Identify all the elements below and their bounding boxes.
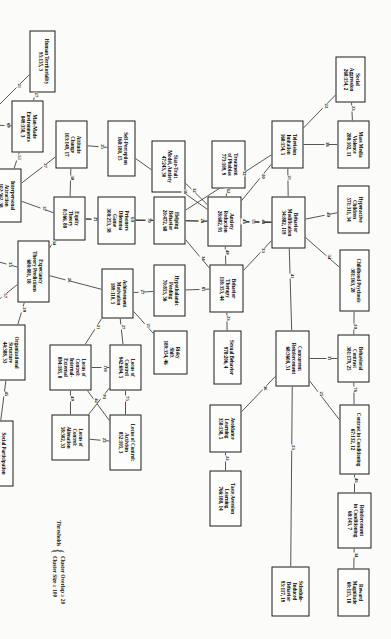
node-reinforcement_cond[interactable]: Reinforcementin Conditioning68:143, 7 [337,492,371,548]
node-taste_aversion[interactable]: Taste AversionLearning766:188, 14 [209,470,241,526]
node-stats: 44:388, 33 [0,341,6,363]
edge-weight: 21 [286,175,291,180]
node-title: EquityTheory [66,210,78,226]
node-title: HelpingBehavior [166,210,178,229]
edge-weight: 28 [198,218,203,223]
node-title: HyperactiveChildren [350,196,362,222]
node-title: TelevisionImitation [284,133,296,154]
edge-weight: 110 [101,364,106,372]
edge-weight: 23 [350,105,355,110]
node-mass_media_violence[interactable]: Mass MediaViolence288:102, 11 [337,120,369,168]
node-treatment_phobias[interactable]: Treatmentof Phobias773:109, 9 [211,140,245,188]
node-title: ExpectancyTheory Predictions [30,251,42,292]
edge-risky_shift-achievement_motivation [133,311,153,333]
node-stats: 58:302, 33 [58,426,64,448]
node-locus_control[interactable]: Locus ofControl942:694, 5 [109,344,141,390]
node-hyperactive_children[interactable]: HyperactiveChildren571:311, 34 [337,185,369,233]
edge-weight: 51 [250,218,255,223]
node-title: ConcurrentReinforcement [289,342,301,374]
node-risky_shift[interactable]: RiskyShift189:354, 46 [153,330,187,374]
node-social_aggression[interactable]: SocialAggression268:154, 2 [335,56,365,102]
legend-brace: { [52,548,64,553]
node-concurrent_reinforce[interactable]: ConcurrentReinforcement68:3608, 51 [275,330,309,386]
node-achievement_motivation[interactable]: AchievementMotivation189:110, 5 [101,268,133,318]
node-locus_control_int_ext[interactable]: Locus ofControl:Internal-External894:185… [49,344,91,390]
edge-behavior_therapy-helping_behavior [185,239,209,268]
edge-weight: 93 [100,393,105,398]
node-title: HypothalamicFeeding [166,275,178,305]
node-stats: 8:566, 88 [60,208,66,227]
node-social_participation[interactable]: Social Participationin Organizations51:1… [0,420,13,486]
node-stats: 118:353, 44 [217,276,223,300]
edge-weight: 37 [40,205,45,210]
edge-locus_control-locus_control_alien [88,387,109,414]
edge-weight: 75 [123,395,128,400]
node-title: AvoidanceLearning [222,417,234,439]
edge-weight: 62 [224,188,229,193]
node-contrast_conditioning[interactable]: Contrast in Conditioning67:132, 12 [339,404,369,474]
node-organizational_struct[interactable]: OrganizationalStructure44:388, 33 [0,324,25,380]
edge-weight: 30 [68,175,73,180]
edge-social_aggression-television_imitation [303,94,335,127]
edge-weight: 27 [42,162,47,167]
node-title: Schedule-InducedBehavior [284,581,302,602]
node-schedule_induced[interactable]: Schedule-InducedBehavior93:117, 19 [271,566,309,616]
node-man_made_env[interactable]: Man-MadeEnvironments849:358, 3 [11,100,43,152]
edge-weight: 49 [68,395,73,400]
node-behavioral_contrast[interactable]: BehavioralContrast381:179, 25 [337,334,369,382]
node-locus_control_alien[interactable]: Locus ofControl:Alienation58:302, 33 [51,414,89,460]
edge-behavior_modification-concurrent_reinforce [289,248,291,330]
node-state_trait_anxiety[interactable]: State-TraitModel, Anxiety47:243, 30 [151,140,185,192]
node-childhood_psychosis[interactable]: Childhood Psychosis381:163, 28 [339,249,369,311]
node-stats: 28:682, 95 [215,210,221,232]
edge-weight: 49 [223,249,228,254]
node-human_territoriality[interactable]: Human Territoriality95:135, 3 [29,30,55,92]
edge-weight: 60 [128,216,133,221]
edge-weight: 46 [352,477,357,482]
edge-weight: 32 [191,187,196,192]
node-television_imitation[interactable]: TelevisionImitation168:154, 5 [271,120,303,168]
node-stats: 381:163, 28 [348,268,354,292]
edge-attitude_change-equity_theory [70,168,71,196]
node-stats: 70:853, 36 [160,279,166,301]
edge-achievement_motivation-locus_control [120,318,123,344]
node-title: Locus ofControl:Alienation [64,426,82,448]
node-interpersonal_attr[interactable]: InterpersonalAttraction102:562, 38 [0,168,21,222]
node-title: BehaviorModification [285,208,297,235]
node-anxiety_reduction[interactable]: AnxietyReduction28:682, 95 [207,196,241,246]
node-reward_magnitude[interactable]: RewardMagnitude69:115, 18 [337,568,369,616]
edge-weight: 76 [352,386,357,391]
edge-concurrent_reinforce-contrast_conditioning [309,380,339,419]
edge-childhood_psychosis-behavior_modification [305,237,339,267]
edge-weight: 20 [259,173,264,178]
diagram-canvas: 2322382120324034334846413176204634252336… [0,0,391,639]
edge-weight: 20 [352,323,357,328]
node-expectancy_theory[interactable]: ExpectancyTheory Predictions680:881, 18 [17,240,49,302]
edge-weight: 26 [65,277,70,282]
node-avoidance_learning[interactable]: AvoidanceLearning358:138, 5 [209,404,241,452]
node-behavior_modification[interactable]: BehaviorModification34:882, 119 [271,196,305,248]
node-behavior_therapy[interactable]: BehaviorTherapy118:353, 44 [209,264,243,312]
node-stats: 168:154, 5 [278,133,284,155]
node-helping_behavior[interactable]: HelpingBehavior20:472, 68 [153,196,185,244]
node-hypothalamic_feeding[interactable]: HypothalamicFeeding70:853, 36 [153,264,185,316]
node-attitude_change[interactable]: AttitudeChange103:149, 17 [55,120,87,168]
node-stats: 68:3608, 51 [283,346,289,370]
node-self_perception[interactable]: Self-Perception168:180, 15 [107,120,135,176]
node-stats: 189:110, 5 [108,282,114,303]
node-sexual_behavior[interactable]: Sexual Behavior978:206, 4 [213,330,241,384]
node-stats: 102:562, 38 [0,183,2,207]
edge-achievement_motivation-locus_control_int_ext [85,318,102,344]
node-stats: 268:154, 2 [341,68,347,90]
node-stats: 69:115, 18 [344,581,350,602]
edge-weight: 46 [240,218,245,223]
legend-label: Thresholds [55,520,61,546]
node-stats: 308:253, 38 [104,208,110,232]
legend-row-size: Cluster Size ≥ 100 [51,555,57,603]
node-equity_theory[interactable]: EquityTheory8:566, 88 [53,196,85,240]
edge-equity_theory-interpersonal_attr [21,201,53,213]
node-stats: 95:135, 3 [36,51,42,70]
edge-hyperactive_children-behavior_modification [305,212,337,218]
node-title: Taste AversionLearning [222,483,234,514]
node-locus_control_activism[interactable]: Locus of Control:Activism852:105, 3 [109,414,141,470]
